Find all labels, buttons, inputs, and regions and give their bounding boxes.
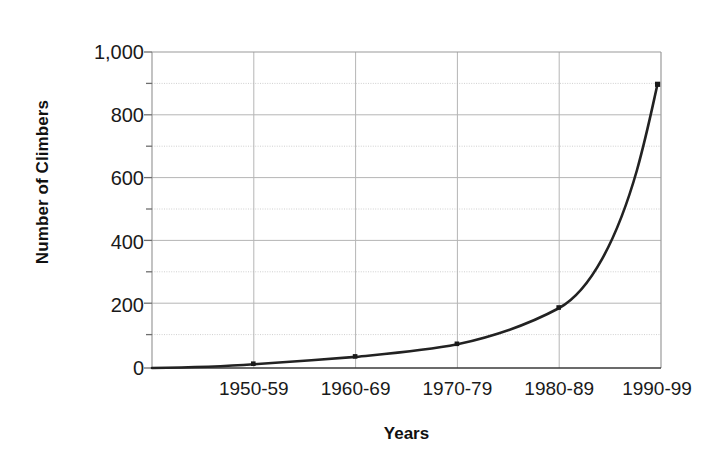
- x-tick-label: 1980-89: [524, 378, 594, 400]
- x-tick-label: 1970-79: [423, 378, 493, 400]
- x-tick-label: 1950-59: [219, 378, 289, 400]
- x-axis-title: Years: [152, 424, 661, 444]
- x-tick-label: 1990-99: [622, 378, 692, 400]
- x-tick-label: 1960-69: [321, 378, 391, 400]
- x-axis-tick-labels: 1950-59 1960-69 1970-79 1980-89 1990-99: [0, 0, 708, 463]
- chart-figure: Number of Climbers 1,000 800 600 400 200…: [0, 0, 708, 463]
